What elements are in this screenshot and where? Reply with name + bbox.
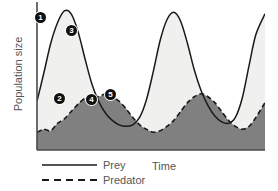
legend-item-prey: Prey	[103, 159, 126, 171]
x-axis-label: Time	[152, 160, 176, 172]
predator-prey-population-chart: Population size Time Prey Predator 12345	[0, 0, 278, 191]
annotation-marker-3: 3	[66, 25, 77, 36]
annotation-marker-2: 2	[54, 93, 65, 104]
annotation-marker-4: 4	[86, 94, 97, 105]
annotation-marker-1: 1	[35, 12, 46, 23]
legend-item-predator: Predator	[103, 174, 145, 186]
annotation-marker-5: 5	[105, 89, 116, 100]
y-axis-label: Population size	[12, 19, 24, 129]
chart-canvas	[0, 0, 278, 191]
